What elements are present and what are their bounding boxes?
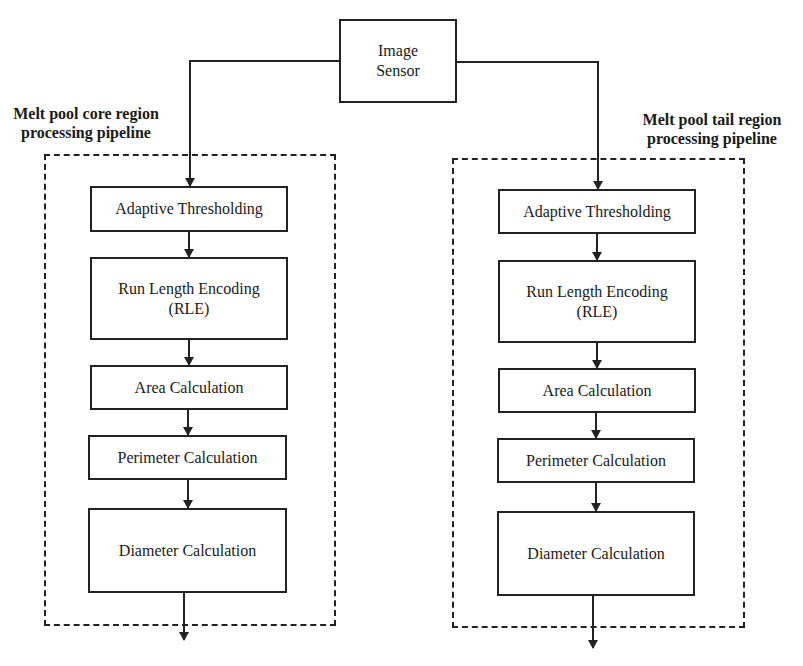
tail-diameter-calculation-node: Diameter Calculation [497, 511, 695, 596]
node-label: Run Length Encoding [526, 282, 667, 302]
core-pipeline-title: Melt pool core region processing pipelin… [0, 104, 172, 142]
tail-adaptive-thresholding-node: Adaptive Thresholding [498, 189, 696, 234]
node-label: Adaptive Thresholding [523, 202, 671, 222]
core-area-calculation-node: Area Calculation [90, 365, 288, 410]
tail-pipeline-title-2: processing pipeline [622, 129, 802, 148]
node-label: Adaptive Thresholding [115, 199, 263, 219]
node-label: Perimeter Calculation [526, 451, 666, 471]
core-perimeter-calculation-node: Perimeter Calculation [88, 435, 287, 480]
node-label: Diameter Calculation [527, 544, 664, 564]
tail-rle-node: Run Length Encoding (RLE) [498, 260, 696, 343]
node-label: Area Calculation [543, 381, 652, 401]
core-diameter-calculation-node: Diameter Calculation [88, 508, 287, 593]
node-label: Diameter Calculation [119, 541, 256, 561]
core-pipeline-title-2: processing pipeline [0, 123, 172, 142]
tail-pipeline-title-1: Melt pool tail region [622, 110, 802, 129]
image-sensor-label-1: Image [378, 41, 418, 61]
core-pipeline-title-1: Melt pool core region [0, 104, 172, 123]
core-adaptive-thresholding-node: Adaptive Thresholding [90, 186, 288, 232]
tail-area-calculation-node: Area Calculation [498, 368, 696, 413]
node-label-2: (RLE) [169, 299, 210, 319]
node-label-2: (RLE) [577, 302, 618, 322]
node-label: Area Calculation [135, 378, 244, 398]
node-label: Run Length Encoding [118, 279, 259, 299]
image-sensor-label-2: Sensor [376, 61, 420, 81]
tail-pipeline-title: Melt pool tail region processing pipelin… [622, 110, 802, 148]
image-sensor-node: Image Sensor [339, 19, 457, 103]
node-label: Perimeter Calculation [118, 448, 258, 468]
core-rle-node: Run Length Encoding (RLE) [90, 257, 288, 340]
tail-perimeter-calculation-node: Perimeter Calculation [497, 438, 695, 483]
